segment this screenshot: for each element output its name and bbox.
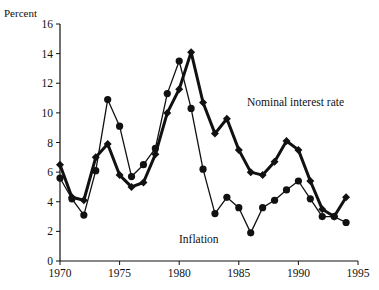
data-point-circle	[56, 174, 63, 181]
data-point-circle	[211, 210, 218, 217]
series-inflation	[56, 57, 349, 236]
y-tick-label: 8	[47, 137, 53, 149]
data-point-circle	[271, 197, 278, 204]
annotation-inflation: Inflation	[179, 233, 219, 245]
data-point-circle	[199, 166, 206, 173]
data-point-circle	[128, 173, 135, 180]
annotation-nominal-interest-rate: Nominal interest rate	[247, 96, 344, 108]
data-point-circle	[80, 211, 87, 218]
y-tick-label: 12	[42, 77, 54, 89]
x-tick-label: 1990	[287, 267, 310, 279]
data-point-circle	[342, 219, 349, 226]
data-point-diamond	[56, 161, 64, 169]
data-point-circle	[92, 167, 99, 174]
y-axis-label: Percent	[4, 7, 37, 19]
data-point-diamond	[187, 48, 195, 56]
chart: Percent 02468101214161970197519801985199…	[0, 0, 379, 290]
data-point-circle	[140, 161, 147, 168]
x-tick-label: 1980	[168, 267, 191, 279]
y-tick-label: 2	[47, 225, 53, 237]
data-point-circle	[223, 194, 230, 201]
data-point-circle	[235, 204, 242, 211]
data-point-circle	[331, 213, 338, 220]
data-point-circle	[295, 177, 302, 184]
x-tick-label: 1985	[227, 267, 250, 279]
y-tick-label: 16	[42, 18, 54, 30]
x-tick-label: 1995	[347, 267, 370, 279]
y-tick-label: 4	[47, 196, 53, 208]
data-point-circle	[68, 195, 75, 202]
y-tick-label: 10	[42, 107, 54, 119]
data-point-circle	[152, 145, 159, 152]
y-tick-label: 6	[47, 166, 53, 178]
y-tick-label: 14	[42, 48, 54, 60]
x-tick-label: 1970	[49, 267, 72, 279]
data-point-circle	[307, 195, 314, 202]
series-nominal-interest-rate	[56, 48, 350, 220]
data-point-circle	[188, 105, 195, 112]
data-point-circle	[164, 90, 171, 97]
data-point-circle	[259, 204, 266, 211]
x-tick-label: 1975	[108, 267, 131, 279]
data-point-circle	[247, 229, 254, 236]
y-tick-label: 0	[47, 255, 53, 267]
data-point-circle	[283, 186, 290, 193]
data-point-diamond	[199, 99, 207, 107]
data-point-circle	[116, 123, 123, 130]
data-point-circle	[176, 57, 183, 64]
data-point-circle	[104, 96, 111, 103]
data-point-circle	[319, 213, 326, 220]
